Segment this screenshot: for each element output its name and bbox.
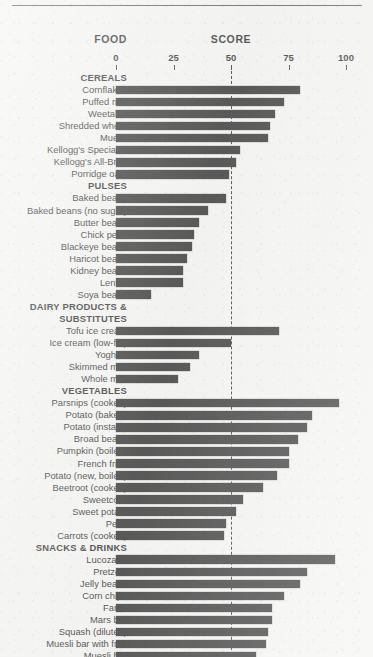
section-label: SNACKS & DRINKS bbox=[0, 542, 127, 554]
table-row: Muesli bar with fruit bbox=[0, 638, 373, 650]
bar bbox=[116, 411, 312, 420]
bar-row-label: Muesli bbox=[0, 132, 127, 144]
bar bbox=[116, 170, 229, 179]
bar-row-label: Soya beans bbox=[0, 289, 127, 301]
bar bbox=[116, 134, 268, 143]
bar-row-label: Mars bar bbox=[0, 614, 127, 626]
bar-row-label: Parsnips (cooked) bbox=[0, 397, 127, 409]
table-row: Lucozade bbox=[0, 554, 373, 566]
top-divider-rule bbox=[12, 5, 362, 6]
table-row: Corn chips bbox=[0, 590, 373, 602]
bar bbox=[116, 495, 243, 504]
table-row: Chick peas bbox=[0, 229, 373, 241]
bar bbox=[116, 230, 194, 239]
bar bbox=[116, 290, 151, 299]
bar-row-label: Muesli bar with fruit bbox=[0, 638, 127, 650]
x-axis-tick-mark-25 bbox=[174, 65, 175, 70]
table-row: Fanta bbox=[0, 602, 373, 614]
table-row: Skimmed milk bbox=[0, 361, 373, 373]
section-label: SUBSTITUTES bbox=[0, 313, 127, 325]
bar bbox=[116, 86, 300, 95]
table-row: Porridge oats bbox=[0, 168, 373, 180]
bar-row-label: Haricot beans bbox=[0, 253, 127, 265]
bar-row-label: Sweet potato bbox=[0, 506, 127, 518]
bar-row-label: Skimmed milk bbox=[0, 361, 127, 373]
column-header-food: FOOD bbox=[0, 33, 127, 45]
bar-row-label: Butter beans bbox=[0, 217, 127, 229]
bar bbox=[116, 399, 339, 408]
bar bbox=[116, 242, 192, 251]
bar-row-label: Ice cream (low-fat) bbox=[0, 337, 127, 349]
bar bbox=[116, 146, 240, 155]
table-row: Parsnips (cooked) bbox=[0, 397, 373, 409]
bar-row-label: Corn chips bbox=[0, 590, 127, 602]
table-row: Shredded wheat bbox=[0, 120, 373, 132]
bar-row-label: Squash (diluted) bbox=[0, 626, 127, 638]
table-row: Ice cream (low-fat) bbox=[0, 337, 373, 349]
bar bbox=[116, 351, 199, 360]
bar-row-label: Lucozade bbox=[0, 554, 127, 566]
section-heading-row: SUBSTITUTES bbox=[0, 313, 373, 325]
table-row: Cornflakes bbox=[0, 84, 373, 96]
bar bbox=[116, 339, 231, 348]
section-label: PULSES bbox=[0, 180, 127, 192]
bar bbox=[116, 640, 266, 649]
bar bbox=[116, 423, 307, 432]
table-row: Baked beans (no sugar) bbox=[0, 205, 373, 217]
bar-row-label: Carrots (cooked) bbox=[0, 530, 127, 542]
bar bbox=[116, 363, 190, 372]
bar-row-label: Kellogg's All-Bran bbox=[0, 156, 127, 168]
bar-row-label: Peas bbox=[0, 518, 127, 530]
section-label: CEREALS bbox=[0, 72, 127, 84]
table-row: Sweetcorn bbox=[0, 494, 373, 506]
table-row: Kellogg's Special K bbox=[0, 144, 373, 156]
x-axis-tick-label-50: 50 bbox=[226, 52, 237, 63]
section-label: VEGETABLES bbox=[0, 385, 127, 397]
bar bbox=[116, 122, 270, 131]
table-row: Beetroot (cooked) bbox=[0, 482, 373, 494]
table-row: Soya beans bbox=[0, 289, 373, 301]
table-row: Squash (diluted) bbox=[0, 626, 373, 638]
bar-row-label: Potato (baked) bbox=[0, 409, 127, 421]
table-row: Baked beans bbox=[0, 192, 373, 204]
bar-row-label: Baked beans (no sugar) bbox=[0, 205, 127, 217]
bar bbox=[116, 110, 275, 119]
table-row: Butter beans bbox=[0, 217, 373, 229]
chart-page: FOOD SCORE 0255075100 CEREALSCornflakesP… bbox=[0, 0, 373, 657]
bar bbox=[116, 218, 199, 227]
x-axis-tick-label-0: 0 bbox=[113, 52, 118, 63]
bar-row-label: Whole milk bbox=[0, 373, 127, 385]
bar-row-label: Jelly beans bbox=[0, 578, 127, 590]
bar-row-label: Porridge oats bbox=[0, 168, 127, 180]
table-row: Pumpkin (boiled) bbox=[0, 445, 373, 457]
table-row: Muesli bar bbox=[0, 650, 373, 657]
bar bbox=[116, 435, 298, 444]
bar-row-label: French fries bbox=[0, 458, 127, 470]
bar bbox=[116, 592, 284, 601]
table-row: Peas bbox=[0, 518, 373, 530]
bar-row-label: Cornflakes bbox=[0, 84, 127, 96]
bar-row-label: Fanta bbox=[0, 602, 127, 614]
bar-row-label: Potato (instant) bbox=[0, 421, 127, 433]
table-row: Kidney beans bbox=[0, 265, 373, 277]
table-row: Lentils bbox=[0, 277, 373, 289]
x-axis-tick-label-100: 100 bbox=[338, 52, 354, 63]
bar-chart-plot-area: CEREALSCornflakesPuffed riceWeetabixShre… bbox=[0, 72, 373, 657]
bar bbox=[116, 483, 263, 492]
bar bbox=[116, 254, 187, 263]
bar bbox=[116, 266, 183, 275]
bar bbox=[116, 568, 307, 577]
bar-row-label: Kidney beans bbox=[0, 265, 127, 277]
table-row: Puffed rice bbox=[0, 96, 373, 108]
bar bbox=[116, 604, 272, 613]
table-row: Yoghurt bbox=[0, 349, 373, 361]
bar-row-label: Broad beans bbox=[0, 433, 127, 445]
bar-row-label: Tofu ice cream bbox=[0, 325, 127, 337]
bar bbox=[116, 158, 236, 167]
bar bbox=[116, 616, 272, 625]
table-row: Potato (instant) bbox=[0, 421, 373, 433]
bar bbox=[116, 580, 300, 589]
x-axis-tick-mark-75 bbox=[289, 65, 290, 70]
table-row: Haricot beans bbox=[0, 253, 373, 265]
table-row: Jelly beans bbox=[0, 578, 373, 590]
